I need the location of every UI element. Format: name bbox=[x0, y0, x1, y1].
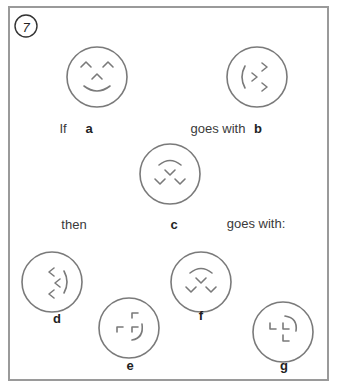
figure-d-face-icon[interactable] bbox=[22, 252, 82, 312]
figure-b-label: b bbox=[254, 122, 262, 135]
figure-d-label: d bbox=[53, 312, 61, 325]
figure-c-label: c bbox=[170, 218, 177, 231]
word-then: then bbox=[61, 218, 86, 231]
figure-e-face-icon[interactable] bbox=[99, 298, 159, 358]
word-goes-with-1: goes with bbox=[191, 122, 246, 135]
puzzle-artwork bbox=[0, 0, 339, 389]
figure-e-label: e bbox=[126, 359, 133, 372]
puzzle-number: 7 bbox=[22, 21, 29, 34]
figure-b-face-icon[interactable] bbox=[227, 47, 287, 107]
figure-g-face-icon[interactable] bbox=[253, 302, 313, 362]
word-if: If bbox=[59, 122, 66, 135]
figure-g-label: g bbox=[280, 359, 288, 372]
figure-f-label: f bbox=[199, 309, 203, 322]
word-goes-with-2: goes with: bbox=[227, 217, 286, 230]
figure-a-label: a bbox=[85, 122, 92, 135]
figure-c-face-icon[interactable] bbox=[140, 144, 200, 204]
figure-a-face-icon[interactable] bbox=[67, 47, 127, 107]
figure-f-face-icon[interactable] bbox=[171, 252, 231, 312]
